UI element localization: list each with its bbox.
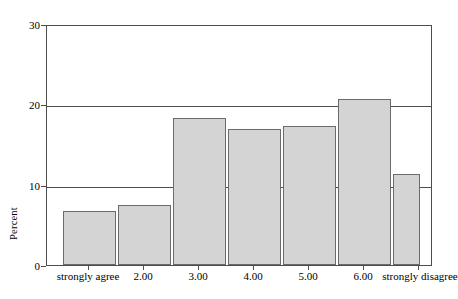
x-tick-label-3: 3.00 — [188, 270, 207, 283]
bar-4 — [228, 129, 281, 265]
y-tick-label-20: 20 — [16, 100, 40, 111]
bar-2 — [118, 205, 171, 265]
y-tick-label-10: 10 — [16, 181, 40, 192]
y-axis-tick-labels: 30 20 10 0 — [12, 0, 40, 299]
x-tick-label-4: 4.00 — [243, 270, 262, 283]
x-tick-label-strongly-agree: strongly agree — [57, 270, 120, 283]
x-axis-tick-labels: strongly agree 2.00 3.00 4.00 5.00 6.00 … — [0, 270, 456, 290]
bar-strongly-disagree — [393, 174, 420, 265]
x-tick-label-6: 6.00 — [353, 270, 372, 283]
y-tick-label-30: 30 — [16, 20, 40, 31]
x-tick-label-strongly-disagree: strongly disagree — [382, 270, 457, 283]
bar-strongly-agree — [63, 211, 116, 265]
x-tick-label-2: 2.00 — [133, 270, 152, 283]
bar-3 — [173, 118, 226, 265]
bar-5 — [283, 126, 336, 265]
plot-area — [46, 25, 432, 266]
x-tick-label-5: 5.00 — [298, 270, 317, 283]
bar-6 — [338, 99, 391, 266]
